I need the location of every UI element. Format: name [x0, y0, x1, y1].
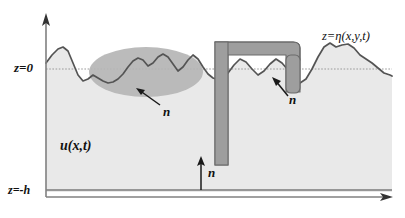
label-still-water-level: z=0: [14, 61, 33, 74]
label-free-surface: z=η(x,y,t): [322, 30, 370, 43]
surface-patch-ellipse: [89, 47, 203, 97]
x-axis: [46, 193, 393, 201]
label-normal-structure: n: [289, 93, 296, 106]
label-bottom-level: z=-h: [8, 184, 30, 196]
figure-canvas: z=0 z=-h z=η(x,y,t) u(x,t) n n n: [0, 0, 405, 218]
label-normal-ellipse: n: [163, 105, 170, 118]
label-velocity-field: u(x,t): [60, 139, 92, 153]
label-normal-bottom: n: [208, 166, 215, 179]
